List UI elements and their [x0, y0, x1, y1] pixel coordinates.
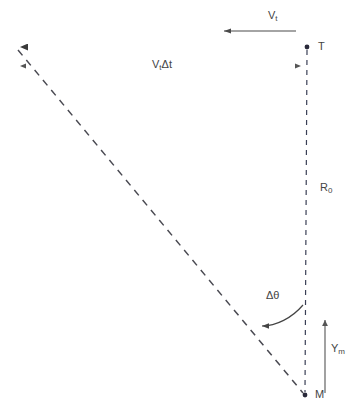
delta-theta-label: Δθ: [266, 290, 279, 301]
velocity-label-sub: t: [275, 14, 277, 23]
range-label-base: R: [320, 181, 328, 193]
range-label-sub: 0: [328, 186, 332, 195]
missile-point-label: M: [315, 389, 324, 400]
displacement-label-sub: t: [159, 63, 161, 72]
new-line-of-sight-dashed: [18, 50, 303, 393]
ym-label-sub: m: [338, 347, 345, 356]
range-dashed-line: [305, 50, 307, 392]
displacement-label-tail: Δt: [162, 58, 172, 70]
target-point-marker: [305, 45, 310, 50]
ym-label: Ym: [331, 343, 345, 354]
delta-theta-arc-arrow: [262, 305, 303, 326]
target-point-label: T: [318, 41, 325, 52]
diagram-canvas: Vt VtΔt T R0 Δθ Ym M: [0, 0, 363, 414]
displacement-label: VtΔt: [152, 59, 172, 70]
missile-point-marker: [303, 393, 308, 398]
diagram-svg: [0, 0, 363, 414]
velocity-label: Vt: [268, 10, 278, 21]
range-label: R0: [320, 182, 332, 193]
